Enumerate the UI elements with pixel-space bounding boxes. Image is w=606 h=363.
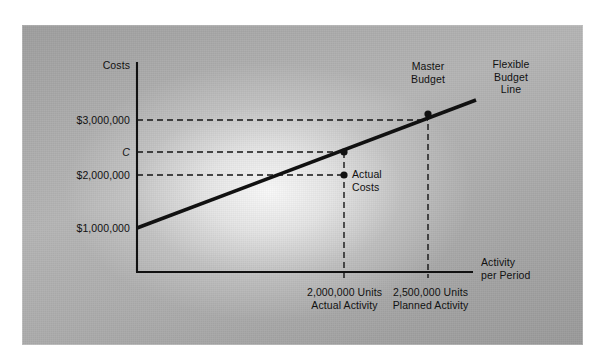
x-tick-planned-units: 2,500,000 Units — [358, 286, 503, 299]
y-axis-title: Costs — [62, 59, 130, 72]
annotation-actual-costs: Actual Costs — [352, 168, 412, 193]
y-tick-label-c: C — [54, 146, 130, 159]
x-axis-title-line1: Activity — [481, 256, 573, 269]
annotation-actual-costs-line2: Costs — [352, 181, 412, 194]
y-tick-label-2000000: $2,000,000 — [54, 169, 130, 182]
x-axis-title-line2: per Period — [481, 269, 573, 282]
x-axis-title: Activity per Period — [481, 256, 573, 281]
x-tick-label-planned-activity: 2,500,000 Units Planned Activity — [358, 286, 503, 311]
figure-canvas: Costs $3,000,000 C $2,000,000 $1,000,000… — [0, 0, 606, 363]
data-point-actual-costs — [340, 171, 347, 178]
x-tick-planned-activity: Planned Activity — [358, 299, 503, 312]
y-tick-label-3000000: $3,000,000 — [54, 114, 130, 127]
annotation-flexible-line-line2: Budget — [476, 71, 546, 84]
y-tick-label-1000000: $1,000,000 — [54, 222, 130, 235]
data-point-flexible-at-actual — [340, 148, 347, 155]
annotation-master-budget-line1: Master — [386, 60, 470, 73]
annotation-master-budget: Master Budget — [386, 60, 470, 85]
annotation-master-budget-line2: Budget — [386, 73, 470, 86]
flexible-budget-line — [137, 100, 476, 228]
annotation-flexible-line-line1: Flexible — [476, 58, 546, 71]
annotation-flexible-line-line3: Line — [476, 83, 546, 96]
annotation-actual-costs-line1: Actual — [352, 168, 412, 181]
annotation-flexible-budget-line: Flexible Budget Line — [476, 58, 546, 96]
data-point-master-budget — [424, 110, 431, 117]
